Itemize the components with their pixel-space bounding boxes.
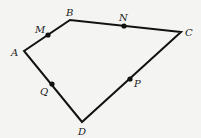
quadrilateral-diagram: A B C D M N P Q (0, 0, 201, 138)
label-q: Q (40, 86, 48, 97)
label-m: M (34, 24, 46, 35)
label-n: N (118, 12, 129, 23)
label-b: B (65, 7, 73, 18)
point-n (121, 23, 126, 28)
point-p (127, 76, 132, 81)
label-a: A (10, 47, 18, 58)
point-m (45, 32, 50, 37)
label-d: D (77, 126, 86, 137)
diagram-canvas: A B C D M N P Q (0, 0, 201, 138)
label-p: P (133, 78, 141, 89)
point-q (49, 81, 54, 86)
label-c: C (185, 27, 193, 38)
